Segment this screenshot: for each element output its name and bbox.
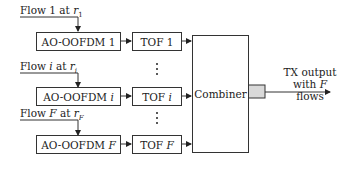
transmitter-block-diagram: Flow 1 at r1 Flow i at ri Flow F at rF A… [0,0,346,169]
ao-oofdm-F-box: AO-OOFDM F [36,135,121,154]
ao-oofdm-1-box: AO-OOFDM 1 [36,32,121,51]
tof-F-box: TOF F [132,135,182,154]
tof-1-box: TOF 1 [132,32,182,51]
flow-1-label: Flow 1 at r1 [20,4,83,21]
tx-output-label: TX output with F flows [278,66,342,102]
ellipsis-dots-upper [156,63,158,78]
flow-i-label: Flow i at ri [20,60,77,77]
tof-i-box: TOF i [132,87,182,106]
ellipsis-dots-lower [156,112,158,127]
ao-oofdm-i-box: AO-OOFDM i [36,87,121,106]
flow-F-label: Flow F at rF [20,107,84,124]
combiner-box: Combiner [192,35,249,153]
